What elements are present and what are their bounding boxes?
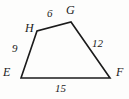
side-length-label-hg: 6 (47, 8, 53, 19)
side-length-label-eh: 9 (12, 43, 18, 54)
side-length-label-gf: 12 (92, 38, 103, 49)
vertex-label-e: E (3, 66, 10, 78)
side-length-label-ef: 15 (55, 83, 66, 94)
geometry-figure-quadrilateral-efgh: E F G H 6 12 15 9 (0, 0, 129, 99)
vertex-label-h: H (25, 22, 34, 34)
quadrilateral-path (21, 22, 110, 78)
vertex-label-g: G (66, 4, 75, 16)
vertex-label-f: F (116, 66, 123, 78)
